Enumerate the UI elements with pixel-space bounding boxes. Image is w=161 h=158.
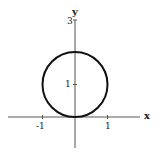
plot-area (0, 0, 161, 158)
x-tick-label-neg1: -1 (36, 122, 45, 131)
y-tick-label-3: 3 (67, 17, 73, 26)
x-axis-label: x (144, 111, 150, 121)
y-tick-label-1: 1 (65, 80, 71, 89)
x-tick-label-1: 1 (105, 122, 111, 131)
